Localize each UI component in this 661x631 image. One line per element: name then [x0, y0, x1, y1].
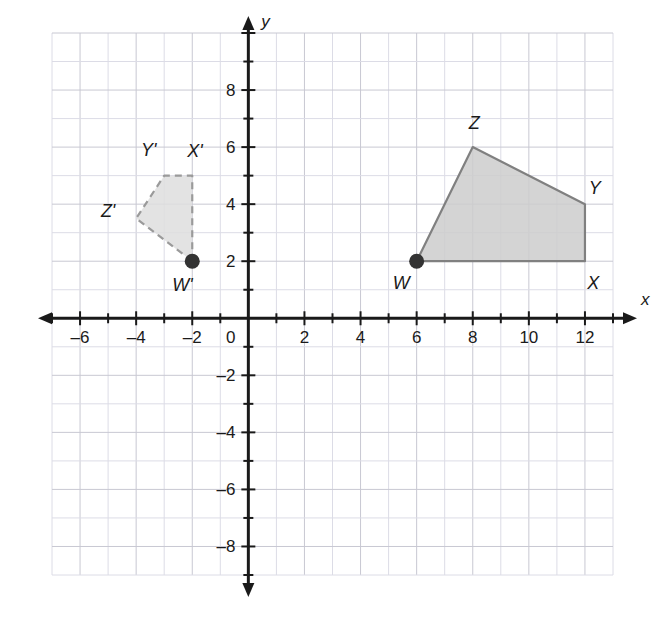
vertex-label-Y: Y [589, 178, 603, 198]
coordinate-plane-svg: –6–4–2246810128642–2–4–6–80xyWXYZW'X'Y'Z… [0, 0, 661, 631]
x-tick-label: 2 [300, 328, 309, 347]
vertex-marker-Wprime [185, 254, 200, 269]
x-tick-label: 6 [412, 328, 421, 347]
x-tick-label: –2 [183, 328, 202, 347]
vertex-marker-W [409, 254, 424, 269]
figure-background [0, 0, 661, 631]
x-tick-label: 8 [468, 328, 477, 347]
y-tick-label: 6 [226, 138, 235, 157]
y-tick-label: –8 [216, 537, 235, 556]
vertex-label-W: W [393, 273, 412, 293]
x-tick-label: –4 [127, 328, 146, 347]
x-tick-label: 4 [356, 328, 365, 347]
vertex-label-Wprime: W' [172, 275, 193, 295]
vertex-label-Z: Z [468, 113, 481, 133]
grid-lines [52, 33, 613, 575]
origin-label: 0 [226, 328, 235, 347]
vertex-label-Yprime: Y' [141, 140, 157, 160]
x-tick-label: 10 [519, 328, 538, 347]
coordinate-plane-figure: –6–4–2246810128642–2–4–6–80xyWXYZW'X'Y'Z… [0, 0, 661, 631]
y-tick-label: –6 [216, 480, 235, 499]
x-tick-label: –6 [71, 328, 90, 347]
y-tick-label: 2 [226, 252, 235, 271]
vertex-label-X: X [586, 273, 600, 293]
y-axis-name: y [260, 12, 271, 31]
vertex-label-Xprime: X' [186, 141, 203, 161]
x-axis-name: x [640, 290, 650, 309]
vertex-label-Zprime: Z' [100, 201, 116, 221]
x-tick-label: 12 [575, 328, 594, 347]
y-tick-label: 8 [226, 81, 235, 100]
y-tick-label: –4 [216, 423, 235, 442]
y-tick-label: 4 [226, 195, 235, 214]
y-tick-label: –2 [216, 366, 235, 385]
